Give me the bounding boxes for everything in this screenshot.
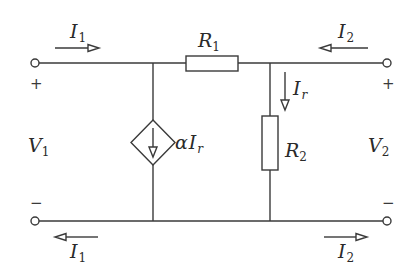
minus-sign-right: − xyxy=(382,194,395,212)
plus-sign-right: + xyxy=(382,75,395,93)
label-i2-top: I2 xyxy=(337,20,354,45)
ir-arrow-head-icon xyxy=(281,100,289,110)
label-ir: Ir xyxy=(292,77,309,102)
label-v1: V1 xyxy=(28,134,49,159)
label-r2: R2 xyxy=(284,139,307,164)
minus-sign-left: − xyxy=(30,194,43,212)
label-i1-bottom: I1 xyxy=(69,240,86,265)
terminal-top-left xyxy=(31,59,39,67)
label-i1-top: I1 xyxy=(69,20,86,45)
circuit-diagram: I1 R1 I2 Ir αIr R2 V1 V2 I1 I2 + + − − xyxy=(0,0,416,276)
i2-top-arrow-head-icon xyxy=(320,45,331,52)
plus-sign-left: + xyxy=(30,75,43,93)
label-alpha-ir: αIr xyxy=(175,131,204,156)
i2-bottom-arrow-head-icon xyxy=(356,234,367,241)
i1-top-arrow-head-icon xyxy=(88,45,99,52)
label-i2-bottom: I2 xyxy=(337,240,354,265)
label-v2: V2 xyxy=(368,134,389,159)
i1-bottom-arrow-head-icon xyxy=(55,234,66,241)
resistor-r2 xyxy=(262,116,278,170)
label-r1: R1 xyxy=(197,29,220,54)
terminal-top-right xyxy=(383,59,391,67)
terminal-bottom-right xyxy=(383,217,391,225)
resistor-r1 xyxy=(186,56,238,71)
terminal-bottom-left xyxy=(31,217,39,225)
